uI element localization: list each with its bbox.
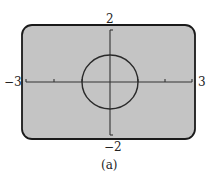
x-min-label: −3 [4, 76, 22, 88]
y-min-label: −2 [104, 141, 122, 153]
y-max-label: 2 [106, 13, 114, 25]
figure-caption: (a) [101, 159, 118, 171]
x-max-label: 3 [198, 76, 206, 88]
